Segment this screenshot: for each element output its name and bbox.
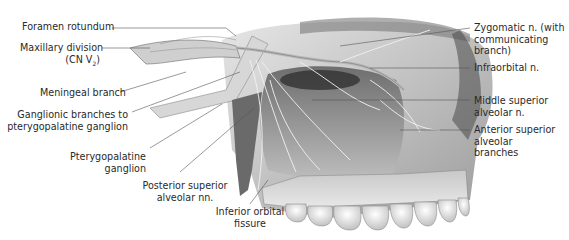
label-ganglionic-line2: pterygopalatine ganglion [0,121,128,133]
label-posterior-superior-alveolar: Posterior superior alveolar nn. [130,180,240,203]
label-anterior-line2: alveolar [474,136,555,148]
label-infraorbital-nerve: Infraorbital n. [474,62,539,74]
label-inferior-line1: Inferior orbital [205,206,295,218]
label-zygomatic-line1: Zygomatic n. (with [474,22,564,34]
label-inferior-orbital-fissure: Inferior orbital fissure [205,206,295,229]
label-pterygopalatine-line1: Pterygopalatine [60,151,146,163]
label-foramen-rotundum: Foramen rotundum [22,21,114,33]
label-anterior-superior-alveolar: Anterior superior alveolar branches [474,124,555,159]
anatomy-figure: Foramen rotundum Maxillary division (CN … [0,0,569,240]
label-ganglionic-line1: Ganglionic branches to [0,109,128,121]
leader-meningeal-branch [120,72,186,92]
label-meningeal-branch: Meningeal branch [40,87,126,99]
label-maxillary-division: Maxillary division (CN V2) [20,42,100,69]
label-posterior-line1: Posterior superior [130,180,240,192]
label-maxillary-division-line1: Maxillary division [20,42,100,54]
label-zygomatic-line3: branch) [474,45,564,57]
label-pterygopalatine-ganglion: Pterygopalatine ganglion [60,151,146,174]
label-pterygopalatine-line2: ganglion [60,163,146,175]
label-inferior-line2: fissure [205,218,295,230]
label-middle-superior-alveolar: Middle superior alveolar n. [474,95,548,118]
label-zygomatic-nerve: Zygomatic n. (with communicating branch) [474,22,564,57]
cn-text: (CN V [65,54,92,65]
cn-close: ) [96,54,100,65]
label-zygomatic-line2: communicating [474,34,564,46]
label-anterior-line3: branches [474,147,555,159]
label-middle-line2: alveolar n. [474,107,548,119]
label-middle-line1: Middle superior [474,95,548,107]
label-ganglionic-branches: Ganglionic branches to pterygopalatine g… [0,109,128,132]
label-anterior-line1: Anterior superior [474,124,555,136]
label-maxillary-division-line2: (CN V2) [20,54,100,69]
label-posterior-line2: alveolar nn. [130,192,240,204]
